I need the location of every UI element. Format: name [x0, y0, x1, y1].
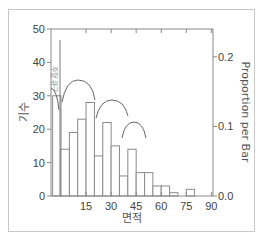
histogram-bars	[53, 96, 195, 196]
histogram-bar	[128, 149, 136, 196]
histogram-bar	[186, 189, 194, 196]
x-tick-label: 90	[205, 200, 217, 212]
y2-axis-ticks: 0.00.10.2	[213, 51, 233, 202]
histogram-bar	[170, 193, 178, 196]
x-tick-label: 45	[130, 200, 142, 212]
y-axis-ticks: 01020304050	[33, 23, 51, 202]
histogram-bar	[61, 149, 69, 196]
histogram-bar	[119, 176, 127, 196]
reference-annotation: 주형 큐구	[50, 66, 58, 93]
histogram-chart: 01020304050 0.00.10.2 153045607590 주형 큐구…	[0, 0, 268, 242]
y2-tick-label: 0.2	[218, 51, 233, 63]
x-tick-label: 30	[105, 200, 117, 212]
histogram-bar	[136, 173, 144, 196]
x-tick-label: 60	[155, 200, 167, 212]
x-tick-label: 75	[180, 200, 192, 212]
y-tick-label: 0	[39, 190, 45, 202]
y-tick-label: 50	[33, 23, 45, 35]
histogram-bar	[78, 119, 86, 196]
overlay-arcs	[51, 80, 146, 138]
histogram-bar	[103, 123, 111, 196]
y-tick-label: 30	[33, 90, 45, 102]
y2-tick-label: 0.0	[218, 190, 233, 202]
overlay-arc	[62, 80, 95, 102]
x-tick-label: 15	[80, 200, 92, 212]
overlay-arc	[96, 100, 128, 118]
histogram-bar	[145, 173, 153, 196]
x-axis-label: 면적	[122, 212, 142, 225]
y-tick-label: 40	[33, 56, 45, 68]
histogram-bar	[69, 133, 77, 196]
histogram-bar	[94, 156, 102, 196]
y-tick-label: 20	[33, 123, 45, 135]
y2-tick-label: 0.1	[218, 120, 233, 132]
y-axis-label: 기수	[18, 102, 31, 122]
histogram-bar	[161, 186, 169, 196]
histogram-bar	[111, 146, 119, 196]
overlay-arc	[122, 122, 146, 138]
histogram-bar	[86, 102, 94, 196]
y2-axis-label: Proportion per Bar	[239, 62, 252, 163]
histogram-bar	[153, 186, 161, 196]
y-tick-label: 10	[33, 157, 45, 169]
